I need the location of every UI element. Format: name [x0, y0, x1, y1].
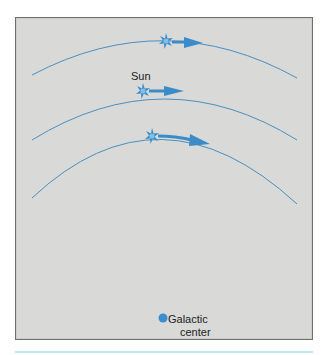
- inner-orbit: [32, 128, 297, 204]
- sun-orbit: [32, 83, 297, 140]
- galactic-center-label-line2: center: [180, 326, 211, 338]
- galactic-center-label-line1: Galactic: [168, 313, 208, 325]
- galactic-orbit-diagram: [0, 0, 327, 355]
- velocity-arrow-icon: [149, 86, 184, 96]
- outer-orbit: [32, 33, 297, 78]
- sun-label: Sun: [131, 70, 151, 82]
- star-burst-icon: [145, 128, 159, 144]
- galactic-center-dot: [159, 314, 168, 323]
- bottom-rule-divider: [15, 351, 313, 353]
- sun-star-burst-icon: [136, 83, 150, 99]
- velocity-arrow-icon: [172, 37, 203, 48]
